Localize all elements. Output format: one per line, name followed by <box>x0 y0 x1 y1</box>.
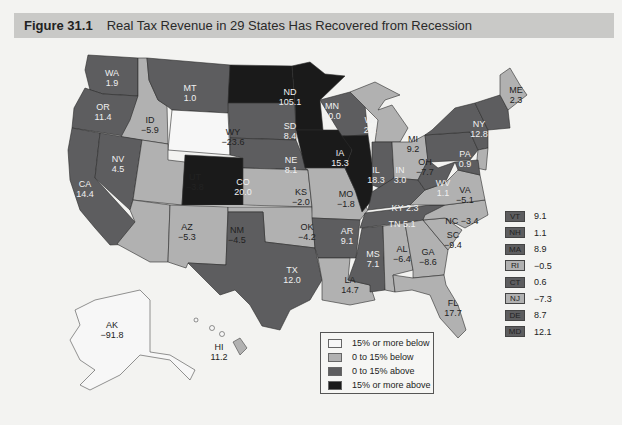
svg-text:−2.0: −2.0 <box>292 197 310 207</box>
svg-text:AK: AK <box>106 320 118 330</box>
svg-text:4.5: 4.5 <box>112 164 125 174</box>
inset-swatch: MA <box>505 244 525 255</box>
svg-text:MO: MO <box>339 189 354 199</box>
svg-text:OH: OH <box>418 157 432 167</box>
svg-text:OK: OK <box>300 222 313 232</box>
state-HI[interactable] <box>233 338 247 355</box>
svg-text:−91.8: −91.8 <box>101 330 124 340</box>
svg-text:ME: ME <box>509 85 523 95</box>
svg-text:−23.6: −23.6 <box>222 137 245 147</box>
legend-item: 0 to 15% above <box>328 364 433 378</box>
inset-row-CT: CT0.6 <box>505 274 552 291</box>
inset-value: −7.3 <box>534 294 552 304</box>
svg-text:TX: TX <box>286 265 298 275</box>
svg-text:2.3: 2.3 <box>510 95 523 105</box>
inset-value: 8.7 <box>534 310 547 320</box>
svg-text:−4.5: −4.5 <box>228 235 246 245</box>
svg-text:−3.8: −3.8 <box>186 182 204 192</box>
inset-row-RI: RI−0.5 <box>505 258 552 275</box>
svg-text:CO: CO <box>236 177 250 187</box>
state-NM[interactable] <box>168 205 228 268</box>
legend-label: 0 to 15% above <box>352 366 415 376</box>
inset-swatch: MD <box>505 326 525 337</box>
svg-text:NM: NM <box>230 225 244 235</box>
svg-text:17.7: 17.7 <box>444 308 462 318</box>
legend-item: 0 to 15% below <box>328 350 433 364</box>
svg-text:14.7: 14.7 <box>341 285 359 295</box>
svg-text:1.1: 1.1 <box>437 188 450 198</box>
svg-text:9.1: 9.1 <box>341 236 354 246</box>
svg-text:LA: LA <box>344 275 355 285</box>
inset-row-NH: NH1.1 <box>505 225 552 242</box>
svg-text:NE: NE <box>285 155 298 165</box>
northeast-inset-list: VT9.1NH1.1MA8.9RI−0.5CT0.6NJ−7.3DE8.7MD1… <box>505 208 552 340</box>
inset-value: 1.1 <box>534 228 547 238</box>
svg-text:AZ: AZ <box>181 222 193 232</box>
label-TN: TN 5.1 <box>388 219 415 229</box>
inset-swatch: NJ <box>505 293 525 304</box>
svg-text:−5.3: −5.3 <box>178 232 196 242</box>
svg-text:WV: WV <box>436 178 451 188</box>
legend-swatch <box>328 367 342 376</box>
svg-text:ID: ID <box>146 115 156 125</box>
label-KY: KY 2.3 <box>392 203 419 213</box>
svg-text:NV: NV <box>112 154 125 164</box>
inset-value: 8.9 <box>534 244 547 254</box>
svg-text:20.0: 20.0 <box>234 187 252 197</box>
svg-text:−5.9: −5.9 <box>141 125 159 135</box>
svg-text:−6.4: −6.4 <box>393 254 411 264</box>
svg-text:−1.8: −1.8 <box>337 199 355 209</box>
inset-row-NJ: NJ−7.3 <box>505 291 552 308</box>
svg-text:12.8: 12.8 <box>470 129 488 139</box>
svg-text:−9.4: −9.4 <box>444 240 462 250</box>
legend-label: 15% or more above <box>352 380 431 390</box>
svg-text:MI: MI <box>408 134 418 144</box>
legend-swatch <box>328 381 342 390</box>
inset-row-MA: MA8.9 <box>505 241 552 258</box>
svg-text:IL: IL <box>372 165 380 175</box>
svg-text:8.1: 8.1 <box>285 165 298 175</box>
legend-label: 0 to 15% below <box>352 352 414 362</box>
svg-text:AR: AR <box>341 226 354 236</box>
svg-text:HI: HI <box>215 342 224 352</box>
state-AK[interactable] <box>70 290 195 390</box>
legend-swatch <box>328 353 342 362</box>
svg-text:ND: ND <box>284 87 297 97</box>
svg-text:3.0: 3.0 <box>394 175 407 185</box>
svg-text:WI: WI <box>365 115 376 125</box>
svg-text:CA: CA <box>79 179 92 189</box>
svg-text:0.9: 0.9 <box>459 159 472 169</box>
svg-text:7.1: 7.1 <box>367 259 380 269</box>
svg-text:NY: NY <box>473 119 486 129</box>
svg-text:SC: SC <box>447 230 460 240</box>
svg-text:GA: GA <box>421 247 434 257</box>
inset-value: −0.5 <box>534 261 552 271</box>
svg-text:−5.1: −5.1 <box>456 195 474 205</box>
map-legend: 15% or more below0 to 15% below0 to 15% … <box>320 332 434 394</box>
svg-text:2.2: 2.2 <box>364 125 377 135</box>
svg-text:8.4: 8.4 <box>284 131 297 141</box>
inset-value: 9.1 <box>534 211 547 221</box>
svg-text:11.4: 11.4 <box>95 112 112 122</box>
svg-text:11.2: 11.2 <box>211 352 228 362</box>
svg-text:PA: PA <box>459 149 470 159</box>
svg-text:SD: SD <box>284 121 297 131</box>
svg-text:MN: MN <box>325 101 339 111</box>
inset-row-MD: MD12.1 <box>505 324 552 341</box>
legend-item: 15% or more above <box>328 378 433 392</box>
legend-item: 15% or more below <box>328 336 433 350</box>
inset-value: 12.1 <box>534 327 552 337</box>
inset-swatch: VT <box>505 211 525 222</box>
svg-text:UT: UT <box>189 172 201 182</box>
svg-text:20.0: 20.0 <box>323 111 341 121</box>
inset-row-VT: VT9.1 <box>505 208 552 225</box>
inset-swatch: CT <box>505 277 525 288</box>
svg-text:105.1: 105.1 <box>279 97 302 107</box>
svg-text:WY: WY <box>226 127 241 137</box>
legend-label: 15% or more below <box>352 338 430 348</box>
svg-text:AL: AL <box>396 244 407 254</box>
inset-row-DE: DE8.7 <box>505 307 552 324</box>
inset-swatch: DE <box>505 310 525 321</box>
state-WY[interactable] <box>168 110 230 155</box>
svg-text:−7.7: −7.7 <box>416 167 434 177</box>
